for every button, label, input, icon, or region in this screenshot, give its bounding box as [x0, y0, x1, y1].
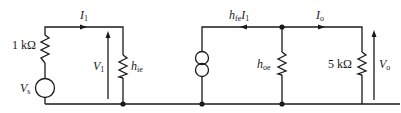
label-io: Io [315, 8, 324, 23]
voltage-source-icon [36, 79, 55, 98]
node-dot [279, 24, 284, 29]
label-hie: hie [131, 59, 143, 74]
label-hfe-i1: hfeI1 [229, 8, 249, 23]
label-5k: 5 kΩ [328, 57, 352, 71]
node-dot [199, 101, 204, 106]
resistor-1k-icon [41, 35, 49, 63]
resistor-hoe-icon [278, 52, 286, 75]
resistor-hie-icon [119, 55, 127, 78]
label-hoe: hoe [257, 57, 271, 72]
current-arrow-hfe-icon [240, 25, 247, 30]
node-dot [120, 101, 125, 106]
current-arrow-io-icon [318, 25, 325, 30]
label-vo: Vo [379, 57, 390, 72]
current-source-icon [196, 52, 209, 77]
voltage-arrow-vo-icon [372, 30, 377, 100]
circuit-diagram: I1 1 kΩ Vs V1 hie hfeI1 hoe Io 5 kΩ Vo [0, 0, 401, 113]
label-1k: 1 kΩ [12, 38, 36, 52]
resistor-5k-icon [358, 52, 366, 75]
current-arrow-i1-icon [80, 25, 87, 30]
node-dot [279, 101, 284, 106]
label-v1: V1 [93, 59, 104, 74]
label-i1: I1 [79, 8, 88, 23]
label-vs: Vs [20, 81, 30, 96]
voltage-arrow-v1-icon [106, 31, 111, 99]
